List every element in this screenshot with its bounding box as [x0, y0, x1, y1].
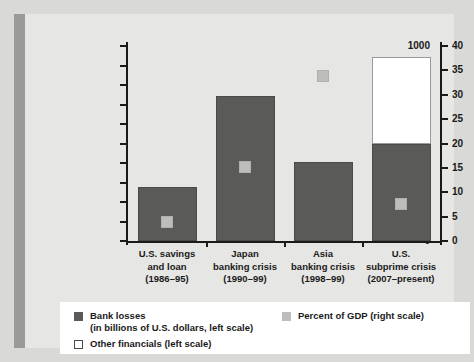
other-financials-swatch-icon [74, 340, 83, 349]
plot-area: 01002003004005006007008009001000 0510152… [128, 46, 440, 241]
right-tick-0 [442, 240, 448, 242]
bar-group-1[interactable] [216, 46, 275, 241]
gdp-marker-1[interactable] [239, 161, 251, 173]
left-tick-400 [120, 162, 126, 164]
left-tick-600 [120, 123, 126, 125]
right-tick-label-15: 15 [452, 163, 474, 173]
right-tick-35 [442, 69, 448, 71]
bar-bank-losses-3[interactable] [372, 144, 431, 242]
gdp-marker-3[interactable] [395, 198, 407, 210]
category-separator-2 [284, 241, 286, 247]
x-axis-category-labels: U.S. savingsand loan(1986–95)Japanbankin… [128, 248, 440, 294]
right-tick-20 [442, 143, 448, 145]
chart-panel: 01002003004005006007008009001000 0510152… [25, 14, 454, 348]
right-tick-15 [442, 167, 448, 169]
right-tick-label-20: 20 [452, 139, 474, 149]
gdp-marker-2[interactable] [317, 70, 329, 82]
gdp-marker-0[interactable] [161, 216, 173, 228]
legend-percent-gdp-label: Percent of GDP (right scale) [298, 310, 424, 322]
bar-group-0[interactable] [138, 46, 197, 241]
legend-bank-losses-line1: Bank losses [90, 310, 145, 322]
category-label-line: subprime crisis [351, 261, 451, 274]
left-tick-800 [120, 84, 126, 86]
left-tick-300 [120, 182, 126, 184]
chart-legend: Bank losses (in billions of U.S. dollars… [60, 302, 470, 354]
left-tick-100 [120, 221, 126, 223]
right-tick-label-25: 25 [452, 114, 474, 124]
category-label-3: U.S.subprime crisis(2007–present) [351, 248, 451, 286]
right-tick-label-0: 0 [452, 236, 474, 246]
right-tick-label-35: 35 [452, 65, 474, 75]
percent-gdp-swatch-icon [282, 312, 291, 321]
left-tick-0 [120, 240, 126, 242]
bar-bank-losses-0[interactable] [138, 187, 197, 241]
right-tick-25 [442, 118, 448, 120]
right-tick-label-30: 30 [452, 90, 474, 100]
category-separator-3 [362, 241, 364, 247]
figure-left-spine [14, 14, 25, 348]
left-tick-200 [120, 201, 126, 203]
right-tick-label-5: 5 [452, 212, 474, 222]
right-tick-5 [442, 216, 448, 218]
right-tick-40 [442, 45, 448, 47]
left-axis-line [126, 42, 128, 245]
bar-other-financials-3[interactable] [372, 57, 431, 144]
legend-bank-losses-line2: (in billions of U.S. dollars, left scale… [90, 322, 253, 334]
right-tick-10 [442, 191, 448, 193]
left-tick-1000 [120, 45, 126, 47]
bar-bank-losses-2[interactable] [294, 162, 353, 241]
right-tick-label-10: 10 [452, 187, 474, 197]
left-tick-700 [120, 104, 126, 106]
right-tick-30 [442, 94, 448, 96]
left-tick-500 [120, 143, 126, 145]
category-label-line: (2007–present) [351, 273, 451, 286]
bank-losses-swatch-icon [74, 312, 83, 321]
category-separator-1 [206, 241, 208, 247]
right-tick-label-40: 40 [452, 41, 474, 51]
category-label-line: U.S. [351, 248, 451, 261]
legend-other-financials-label: Other financials (left scale) [90, 338, 211, 350]
left-tick-900 [120, 65, 126, 67]
bar-group-3[interactable] [372, 46, 431, 241]
